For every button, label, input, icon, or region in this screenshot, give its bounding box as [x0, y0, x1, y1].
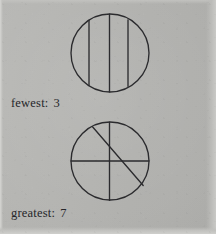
caption-fewest: fewest:3 [11, 96, 60, 111]
caption-fewest-value: 3 [54, 96, 60, 110]
figure-circle-greatest [64, 114, 156, 214]
chord-diagonal-greatest [93, 127, 144, 186]
scanned-page: fewest:3 greatest:7 [0, 0, 216, 234]
caption-greatest: greatest:7 [11, 206, 67, 221]
caption-greatest-value: 7 [60, 206, 66, 220]
figure-circle-fewest [64, 7, 156, 105]
page-edge-right [206, 0, 216, 234]
page-edge-bottom [0, 227, 216, 234]
page-edge-top [0, 0, 216, 4]
caption-fewest-label: fewest: [11, 96, 49, 110]
caption-greatest-label: greatest: [11, 206, 55, 220]
page-edge-left [0, 0, 3, 234]
